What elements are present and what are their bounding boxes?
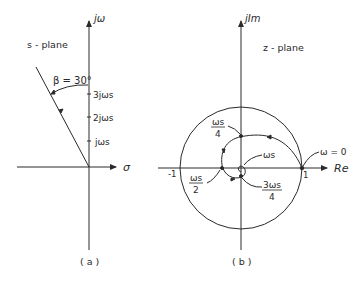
ws4-numerator: ωs (212, 117, 225, 127)
leader-omega-zero (303, 152, 319, 166)
ws2-denominator: 2 (193, 185, 199, 195)
re-axis-label: Re (334, 162, 349, 175)
w3s4-denominator: 4 (269, 192, 275, 202)
ws4-denominator: 4 (215, 129, 221, 139)
pole-locus-spiral (222, 135, 302, 178)
caption-a: ( a ) (80, 256, 99, 267)
omega-zero-label: ω = 0 (320, 147, 347, 157)
ws-label: ωs (263, 150, 276, 160)
minus-one-label: -1 (168, 169, 176, 179)
diagram-canvas: jω s - plane β = 30° 3jωs 2jωs jωs σ ( a… (0, 0, 364, 281)
ws2-numerator: ωs (190, 173, 203, 183)
spiral-arrow-1-icon (267, 135, 271, 139)
ws2-point (221, 167, 224, 170)
ws4-point (240, 135, 243, 138)
tick-label-3jws: 3jωs (93, 90, 114, 100)
jw-axis-label: jω (92, 13, 105, 24)
leader-ws2 (207, 170, 220, 183)
spiral-arrow-3-icon (231, 178, 235, 181)
w3s4-point (240, 175, 243, 178)
leader-ws4 (228, 126, 240, 134)
sigma-axis-label: σ (123, 161, 131, 174)
s-plane-label: s - plane (27, 39, 68, 50)
beta-angle-label: β = 30° (53, 75, 92, 86)
caption-b: ( b ) (232, 256, 251, 267)
z-plane-label: z - plane (263, 42, 304, 53)
tick-label-jws: jωs (94, 137, 110, 147)
leader-w3s4 (242, 178, 262, 187)
beta-angle-arc (51, 85, 88, 94)
tick-label-2jws: 2jωs (93, 113, 114, 123)
one-label: 1 (303, 170, 308, 180)
w3s4-numerator: 3ωs (263, 180, 281, 190)
jim-axis-label: jIm (243, 13, 261, 24)
s-plane-figure (17, 21, 116, 250)
arc-arrowhead-icon (51, 90, 55, 94)
z-plane-figure (158, 21, 327, 250)
leader-ws (244, 155, 262, 165)
